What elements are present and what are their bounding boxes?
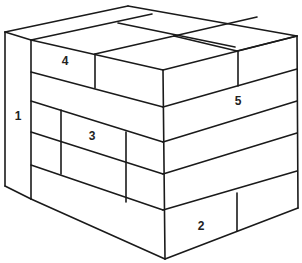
block-edges (5, 6, 298, 259)
label-3: 3 (89, 129, 96, 143)
edge-panel-outer-top (5, 6, 128, 32)
edge-right-course-4 (163, 171, 297, 210)
label-5: 5 (235, 94, 242, 108)
edge-front-corner (163, 70, 165, 259)
label-1: 1 (15, 109, 22, 123)
edge-left-course-3 (31, 132, 163, 174)
edge-right-course-1 (163, 69, 297, 107)
edge-top-seam-d (174, 36, 237, 51)
edge-right-bottom (165, 208, 298, 259)
edge-left-bottom (31, 199, 165, 259)
label-2: 2 (198, 219, 205, 233)
edge-top-seam-e (237, 36, 297, 51)
edge-left-course-1 (31, 72, 163, 107)
edge-top-seam-b (95, 36, 174, 54)
edge-right-course-3 (163, 133, 297, 174)
edge-top-left-front (31, 40, 163, 70)
edge-panel-front-top (5, 32, 31, 40)
edge-left-course-4 (31, 165, 163, 210)
edge-right-course-2 (163, 101, 297, 142)
edge-right-edge (297, 36, 298, 208)
edge-panel-outer-bottom (5, 186, 31, 199)
label-4: 4 (62, 54, 69, 68)
diagram-canvas: 1 2 3 4 5 (0, 0, 302, 263)
block-stack-diagram: 1 2 3 4 5 (0, 0, 302, 263)
edge-left-course-2 (31, 101, 163, 142)
edge-top-back-edge (128, 6, 297, 36)
